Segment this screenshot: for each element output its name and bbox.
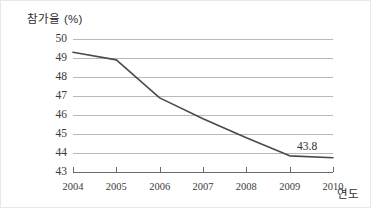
y-axis-tick-label: 43 (45, 166, 67, 178)
x-axis-tick-label: 2005 (96, 182, 136, 193)
x-axis-tick-label: 2006 (140, 182, 180, 193)
y-axis-tick-label: 44 (45, 147, 67, 159)
x-axis-tick-label: 2008 (226, 182, 266, 193)
y-axis-tick-label: 47 (45, 90, 67, 102)
x-axis-baseline (73, 172, 333, 173)
x-axis-tick-label: 2009 (270, 182, 310, 193)
line-series (73, 39, 333, 172)
data-point-label: 43.8 (297, 140, 317, 152)
y-axis-tick-label: 50 (45, 33, 67, 45)
y-axis-tick-label: 48 (45, 71, 67, 83)
x-axis-tick (333, 167, 334, 172)
x-axis-title: 연도 (337, 185, 359, 201)
y-axis-tick-label: 45 (45, 128, 67, 140)
chart-container: 참가율 (%) 4344454647484950 200420052006200… (0, 0, 371, 208)
plot-area: 4344454647484950 20042005200620072008200… (73, 39, 333, 172)
series-polyline (73, 52, 333, 157)
x-axis-tick-label: 2004 (53, 182, 93, 193)
y-axis-tick-label: 46 (45, 109, 67, 121)
x-axis-tick-label: 2007 (183, 182, 223, 193)
y-axis-tick-label: 49 (45, 52, 67, 64)
y-axis-title: 참가율 (%) (27, 10, 82, 26)
